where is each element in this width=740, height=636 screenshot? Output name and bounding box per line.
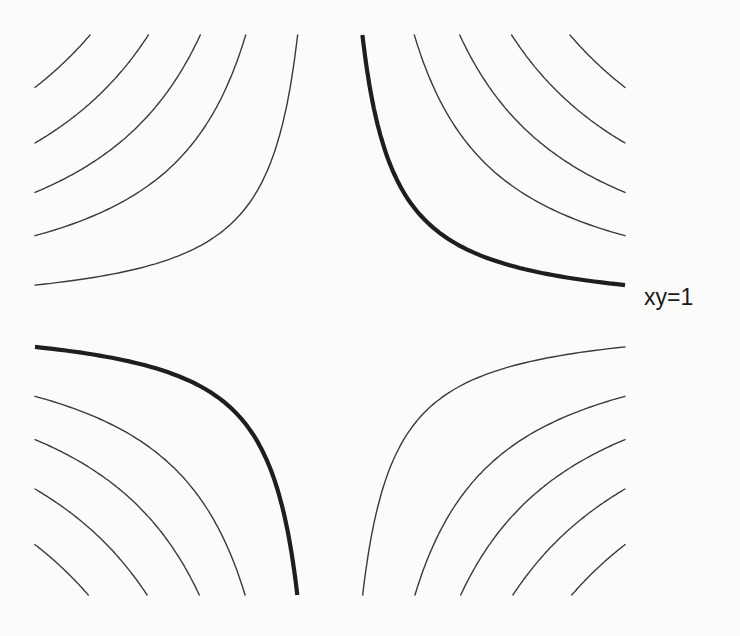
level-curve [414,35,625,236]
level-curve [35,396,245,595]
level-curve [512,35,625,143]
level-curve [35,35,90,87]
level-curve [35,35,246,236]
level-curve [35,545,88,595]
level-curves [35,35,625,595]
highlighted-level-curve [35,347,297,595]
level-curve [363,347,625,595]
level-curve [570,35,625,87]
level-curve [35,35,298,285]
curve-label-xy-1: xy=1 [644,284,693,311]
level-curve [460,35,625,192]
level-curve [415,396,625,595]
contour-figure [0,0,740,636]
level-curve [35,440,199,595]
level-curve [461,440,625,595]
level-curve [513,489,625,595]
level-curve [572,545,625,595]
highlighted-level-curve [362,35,625,285]
level-curve [35,489,147,595]
level-curve [35,35,148,143]
level-curve [35,35,200,192]
